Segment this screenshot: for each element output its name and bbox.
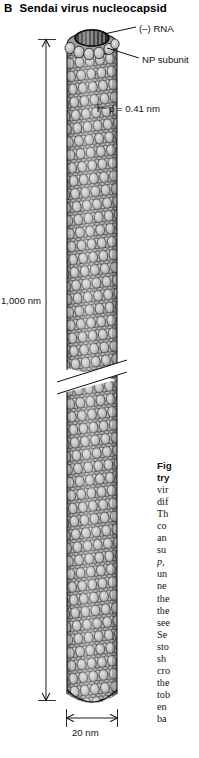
caption-line: dif [157, 496, 199, 508]
caption-line: tob [157, 689, 199, 701]
caption-line: Fig [157, 460, 199, 472]
caption-line: the [157, 593, 199, 605]
caption-line: Th [157, 508, 199, 520]
caption-line: ne [157, 580, 199, 592]
width-dimension [67, 709, 118, 727]
caption-line: su [157, 544, 199, 556]
label-pitch: p = 0.41 nm [109, 103, 160, 114]
caption-line: the [157, 605, 199, 617]
label-rna: (–) RNA [139, 23, 174, 34]
nucleocapsid-lower-segment [64, 376, 122, 716]
figure-caption: FigtryvirdifThcoansup,unnethetheseeSesto… [157, 460, 199, 758]
caption-line: sto [157, 641, 199, 653]
caption-line: cro [157, 665, 199, 677]
label-length: 1,000 nm [1, 295, 41, 306]
caption-line: the [157, 677, 199, 689]
length-dimension [38, 40, 56, 701]
nucleocapsid-upper-segment [64, 28, 122, 388]
caption-line: try [157, 472, 199, 484]
caption-line: sh [157, 653, 199, 665]
label-width: 20 nm [72, 727, 99, 738]
caption-line: en [157, 701, 199, 713]
leader-rna [104, 27, 136, 34]
caption-line: co [157, 520, 199, 532]
caption-line: Se [157, 629, 199, 641]
caption-line: p, [157, 556, 199, 568]
caption-line: see [157, 617, 199, 629]
caption-line: an [157, 532, 199, 544]
caption-line: un [157, 568, 199, 580]
label-np-subunit: NP subunit [142, 54, 189, 65]
caption-line: ba [157, 713, 199, 725]
figure-panel-b: BSendai virus nucleocapsid [0, 0, 199, 758]
caption-line: vir [157, 484, 199, 496]
